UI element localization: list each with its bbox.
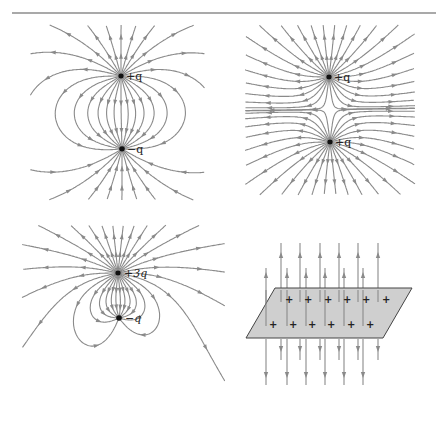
arrow-icon [119, 34, 123, 40]
arrow-icon [82, 68, 88, 72]
arrow-icon [295, 136, 301, 140]
arrow-icon [131, 99, 135, 105]
point-charge [119, 146, 125, 152]
arrow-icon [391, 141, 397, 145]
panel-unequal-charges [22, 225, 225, 381]
arrow-icon [124, 54, 128, 60]
field-line [107, 152, 121, 199]
arrow-icon [389, 114, 395, 118]
arrow-icon [108, 185, 112, 191]
arrow-icon [100, 97, 104, 103]
arrow-icon [107, 166, 112, 172]
arrow-icon [342, 272, 346, 278]
arrow-icon [65, 32, 71, 36]
arrow-icon [112, 287, 116, 293]
arrow-icon [318, 346, 322, 352]
plus-sign: + [289, 319, 297, 330]
field-line [116, 276, 119, 316]
arrow-icon [126, 252, 131, 258]
arrow-icon [114, 128, 118, 134]
plus-sign: + [308, 319, 316, 330]
arrow-icon [129, 287, 134, 293]
arrow-icon [87, 252, 93, 257]
field-line [259, 25, 326, 75]
arrow-icon [197, 290, 203, 294]
arrow-icon [122, 251, 126, 257]
plus-sign: + [304, 294, 312, 305]
arrow-icon [388, 100, 394, 104]
arrow-icon [125, 287, 129, 293]
arrow-icon [279, 346, 283, 352]
arrow-icon [113, 99, 117, 105]
arrow-icon [359, 136, 365, 140]
arrow-icon [125, 99, 129, 105]
plus-sign: + [366, 319, 374, 330]
arrow-icon [294, 150, 300, 154]
arrow-icon [96, 318, 102, 322]
point-charge [326, 74, 332, 80]
arrow-icon [66, 189, 72, 193]
arrow-icon [81, 259, 87, 263]
arrow-icon [102, 288, 107, 294]
field-line [245, 143, 327, 185]
arrow-icon [340, 158, 345, 164]
plus-sign: + [269, 319, 277, 330]
arrow-icon [44, 75, 50, 80]
arrow-icon [294, 73, 300, 77]
arrow-icon [121, 287, 125, 293]
arrow-icon [294, 80, 300, 84]
arrow-icon [171, 33, 177, 37]
arrow-icon [314, 34, 318, 40]
field-line [106, 26, 120, 73]
arrow-icon [348, 112, 354, 116]
arrow-icon [263, 85, 269, 89]
arrow-icon [129, 34, 133, 40]
arrow-icon [138, 97, 142, 103]
field-line [245, 79, 326, 96]
arrow-icon [130, 53, 135, 59]
arrow-icon [262, 62, 268, 66]
arrow-icon [123, 304, 127, 310]
arrow-icon [391, 74, 397, 78]
arrow-icon [357, 129, 363, 133]
arrow-icon [299, 156, 305, 161]
plus-sign: + [382, 294, 390, 305]
plus-sign: + [343, 294, 351, 305]
arrow-icon [203, 344, 207, 350]
arrow-icon [335, 159, 339, 165]
arrow-icon [376, 252, 380, 258]
field-line [246, 37, 326, 77]
arrow-icon [140, 333, 146, 337]
arrow-icon [266, 106, 272, 110]
plus-sign: + [285, 294, 293, 305]
arrow-icon [342, 372, 346, 378]
arrow-icon [393, 153, 399, 157]
arrow-icon [337, 252, 341, 258]
label-minus-q: −q [125, 312, 141, 325]
arrow-icon [315, 158, 320, 164]
arrow-icon [261, 142, 267, 146]
electric-field-figure: ++++++++++++ +q −q +q +q +3q −q [0, 0, 436, 423]
arrow-icon [115, 54, 119, 60]
arrow-icon [299, 59, 305, 64]
arrow-icon [109, 34, 113, 40]
arrow-icon [106, 252, 111, 258]
arrow-icon [119, 100, 123, 106]
arrow-icon [303, 35, 307, 41]
arrow-icon [136, 129, 141, 135]
label-dipole-positive: +q [126, 70, 142, 83]
plus-sign: + [347, 319, 355, 330]
arrow-icon [94, 234, 99, 240]
arrow-icon [132, 166, 137, 172]
field-line [245, 80, 327, 104]
arrow-icon [314, 55, 319, 61]
plus-sign: + [362, 294, 370, 305]
arrow-icon [356, 346, 360, 352]
arrow-icon [72, 286, 78, 291]
arrow-icon [334, 54, 338, 60]
field-line [245, 123, 327, 140]
arrow-icon [107, 287, 111, 293]
field-line [30, 151, 119, 173]
field-line [118, 276, 120, 317]
arrow-icon [105, 233, 109, 239]
